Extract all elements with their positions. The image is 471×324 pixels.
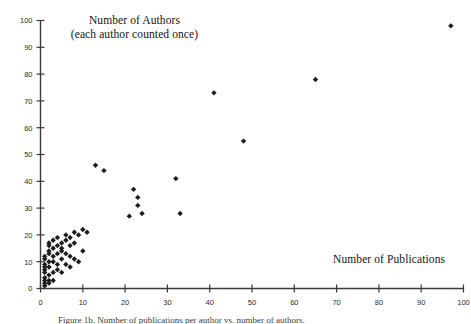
y-tick-label: 20 xyxy=(24,231,32,240)
y-tick-label: 50 xyxy=(24,150,32,159)
data-point-marker xyxy=(93,163,98,168)
y-tick-label: 0 xyxy=(28,284,32,293)
data-point-marker xyxy=(50,259,55,264)
data-point-marker xyxy=(46,264,51,269)
x-tick-label: 20 xyxy=(121,298,129,307)
axis-ticks xyxy=(37,21,464,293)
data-point-marker xyxy=(211,90,216,95)
data-point-marker xyxy=(63,232,68,237)
axes xyxy=(41,21,464,289)
data-point-marker xyxy=(46,272,51,277)
x-tick-label: 0 xyxy=(38,298,42,307)
x-tick-label: 100 xyxy=(457,298,470,307)
data-point-marker xyxy=(101,168,106,173)
data-point-marker xyxy=(50,270,55,275)
data-point-marker xyxy=(55,243,60,248)
data-point-marker xyxy=(59,256,64,261)
data-point-marker xyxy=(177,211,182,216)
data-point-marker xyxy=(76,259,81,264)
data-point-marker xyxy=(72,256,77,261)
data-point-marker xyxy=(63,262,68,267)
scatter-plot-figure: 0102030405060708090100010203040506070809… xyxy=(0,0,471,324)
data-point-marker xyxy=(313,77,318,82)
data-point-marker xyxy=(135,195,140,200)
x-tick-label: 40 xyxy=(206,298,214,307)
data-point-marker xyxy=(80,248,85,253)
data-point-marker xyxy=(448,23,453,28)
y-axis-title-line2: (each author counted once) xyxy=(52,27,217,41)
y-tick-label: 60 xyxy=(24,124,32,133)
x-tick-label: 90 xyxy=(417,298,425,307)
data-point-marker xyxy=(80,227,85,232)
x-tick-label: 80 xyxy=(375,298,383,307)
data-point-marker xyxy=(55,262,60,267)
figure-caption: Figure 1b. Number of publications per au… xyxy=(58,315,458,324)
y-tick-label: 80 xyxy=(24,70,32,79)
data-point-marker xyxy=(139,211,144,216)
y-axis-title-line1: Number of Authors xyxy=(89,14,180,26)
data-point-marker xyxy=(72,240,77,245)
y-tick-label: 10 xyxy=(24,258,32,267)
x-tick-label: 70 xyxy=(332,298,340,307)
data-point-marker xyxy=(76,232,81,237)
data-point-marker xyxy=(55,267,60,272)
y-axis-title: Number of Authors (each author counted o… xyxy=(52,13,217,41)
y-tick-label: 100 xyxy=(20,16,33,25)
data-point-marker xyxy=(67,264,72,269)
data-point-marker xyxy=(55,251,60,256)
data-point-marker xyxy=(59,240,64,245)
data-point-marker xyxy=(59,270,64,275)
x-tick-label: 10 xyxy=(79,298,87,307)
data-points xyxy=(42,23,453,288)
data-point-marker xyxy=(67,235,72,240)
y-tick-label: 30 xyxy=(24,204,32,213)
data-point-marker xyxy=(131,187,136,192)
data-point-marker xyxy=(72,230,77,235)
data-point-marker xyxy=(135,203,140,208)
data-point-marker xyxy=(50,278,55,283)
data-point-marker xyxy=(127,213,132,218)
data-point-marker xyxy=(50,238,55,243)
data-point-marker xyxy=(63,251,68,256)
plot-area: 0102030405060708090100010203040506070809… xyxy=(0,0,471,324)
x-tick-label: 60 xyxy=(290,298,298,307)
data-point-marker xyxy=(50,246,55,251)
data-point-marker xyxy=(173,176,178,181)
data-point-marker xyxy=(241,138,246,143)
data-point-marker xyxy=(84,230,89,235)
y-tick-label: 90 xyxy=(24,43,32,52)
x-tick-label: 30 xyxy=(163,298,171,307)
data-point-marker xyxy=(67,254,72,259)
data-point-marker xyxy=(63,238,68,243)
x-tick-label: 50 xyxy=(248,298,256,307)
data-point-marker xyxy=(55,235,60,240)
data-point-marker xyxy=(50,254,55,259)
data-point-marker xyxy=(67,243,72,248)
x-axis-title: Number of Publications xyxy=(333,253,445,265)
y-tick-label: 40 xyxy=(24,177,32,186)
y-tick-label: 70 xyxy=(24,97,32,106)
